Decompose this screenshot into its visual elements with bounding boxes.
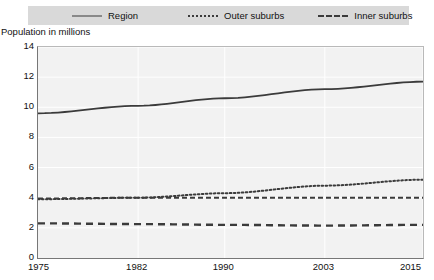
x-tick-label: 2015: [400, 262, 421, 272]
x-tick-label: 1982: [126, 262, 147, 272]
population-line-chart: Region Outer suburbs Inner suburbs Paris…: [0, 0, 434, 280]
x-tick-label: 2003: [313, 262, 334, 272]
x-tick-label: 1990: [213, 262, 234, 272]
plot-wrapper: 02468101214 19751982199020032015: [0, 0, 434, 280]
x-axis-ticks: 19751982199020032015: [0, 0, 434, 280]
x-tick-label: 1975: [28, 262, 49, 272]
